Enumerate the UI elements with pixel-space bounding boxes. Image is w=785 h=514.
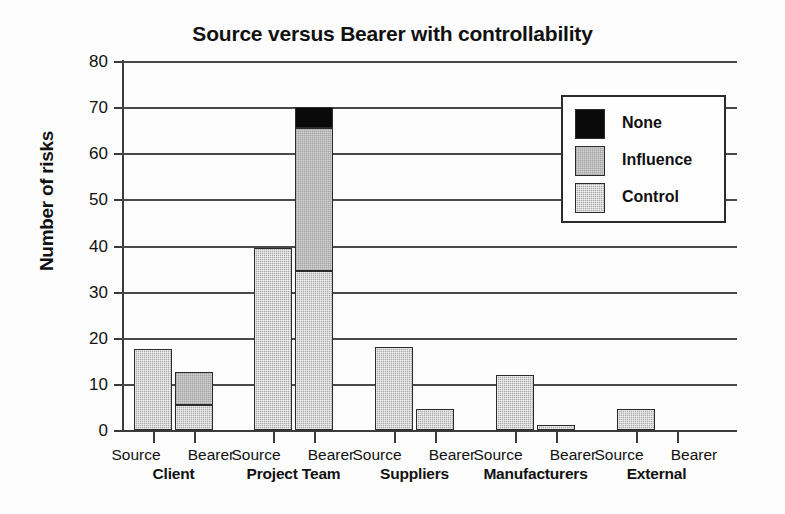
gridline	[122, 338, 737, 340]
legend-swatch-influence	[575, 146, 605, 176]
y-tick-label: 0	[60, 422, 108, 439]
x-tick-mark	[435, 430, 437, 443]
x-tick-mark	[556, 430, 558, 443]
bar-segment-control	[496, 375, 534, 430]
bar-segment-control	[295, 271, 333, 430]
bar-suppliers-bearer	[416, 409, 454, 430]
x-role-label-source: Source	[340, 446, 415, 464]
gridline	[122, 292, 737, 294]
x-tick-mark	[314, 430, 316, 443]
y-axis-title: Number of risks	[36, 91, 58, 311]
bar-client-source	[134, 349, 172, 430]
x-tick-mark	[636, 430, 638, 443]
x-tick-mark	[273, 430, 275, 443]
y-tick-label: 40	[60, 238, 108, 255]
x-group-label: External	[582, 465, 732, 483]
bar-segment-control	[134, 349, 172, 430]
bar-segment-none	[295, 107, 333, 128]
y-tick-label: 10	[60, 376, 108, 393]
legend-label: None	[622, 114, 662, 132]
y-tick-label: 20	[60, 330, 108, 347]
x-axis-line	[122, 430, 737, 432]
bar-segment-control	[375, 347, 413, 430]
bar-project-team-source	[254, 248, 292, 430]
y-tick-label: 80	[60, 53, 108, 70]
x-role-label-source: Source	[582, 446, 657, 464]
bar-segment-control	[254, 248, 292, 430]
x-role-label-source: Source	[461, 446, 536, 464]
x-tick-mark	[153, 430, 155, 443]
y-tick-label: 30	[60, 284, 108, 301]
gridline	[122, 384, 737, 386]
x-role-label-bearer: Bearer	[657, 446, 732, 464]
gridline	[122, 246, 737, 248]
legend-swatch-control	[575, 183, 605, 213]
legend: NoneInfluenceControl	[561, 95, 726, 223]
y-tick-label: 70	[60, 99, 108, 116]
y-tick-label: 60	[60, 145, 108, 162]
bar-segment-control	[416, 409, 454, 430]
bar-segment-control	[617, 409, 655, 430]
bar-external-source	[617, 409, 655, 430]
bar-segment-influence	[295, 128, 333, 271]
legend-swatch-none	[575, 109, 605, 139]
y-tick-label: 50	[60, 191, 108, 208]
bar-segment-control	[175, 405, 213, 430]
x-tick-mark	[194, 430, 196, 443]
bar-project-team-bearer	[295, 107, 333, 430]
x-group-external: SourceBearerExternal	[582, 446, 732, 483]
bar-suppliers-source	[375, 347, 413, 430]
chart-title: Source versus Bearer with controllabilit…	[0, 22, 785, 46]
x-tick-mark	[394, 430, 396, 443]
x-tick-mark	[677, 430, 679, 443]
x-role-label-source: Source	[219, 446, 294, 464]
x-role-label-source: Source	[99, 446, 174, 464]
x-tick-mark	[515, 430, 517, 443]
legend-label: Control	[622, 188, 679, 206]
chart-container: Source versus Bearer with controllabilit…	[0, 0, 785, 514]
bar-manufacturers-source	[496, 375, 534, 430]
bar-client-bearer	[175, 372, 213, 430]
legend-label: Influence	[622, 151, 692, 169]
bar-segment-influence	[175, 372, 213, 404]
gridline	[122, 61, 737, 63]
